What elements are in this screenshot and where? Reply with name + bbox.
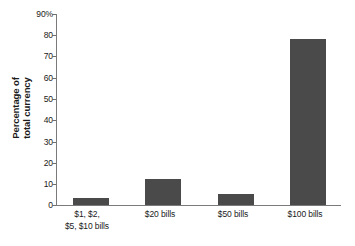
bar-small-bills — [73, 198, 109, 205]
bar-50-bills — [218, 194, 254, 205]
y-axis-title-line1: Percentage of — [10, 77, 21, 139]
x-tick-label-20-bills-line1: $20 bills — [145, 209, 175, 219]
x-tick-label-100-bills-line1: $100 bills — [288, 209, 323, 219]
y-tick-label-70: 70 — [22, 51, 56, 61]
x-tick-label-100-bills: $100 bills — [257, 209, 353, 221]
bar-100-bills — [290, 39, 326, 205]
y-tick-label-80: 80 — [22, 30, 56, 40]
x-tick-label-small-bills-line2: $5, $10 bills — [39, 221, 135, 233]
y-tick-label-50: 50 — [22, 94, 56, 104]
plot-area — [56, 14, 341, 205]
y-tick-label-30: 30 — [22, 137, 56, 147]
bar-chart-figure: Percentage of total currency 90% 80 70 6… — [0, 0, 355, 246]
y-tick-label-90: 90% — [22, 9, 56, 19]
x-tick-label-small-bills-line1: $1, $2, — [74, 209, 99, 219]
x-axis-line — [56, 205, 341, 206]
y-tick-label-60: 60 — [22, 73, 56, 83]
y-tick-label-10: 10 — [22, 179, 56, 189]
y-tick-label-20: 20 — [22, 158, 56, 168]
y-tick-label-40: 40 — [22, 115, 56, 125]
x-tick-label-50-bills-line1: $50 bills — [218, 209, 248, 219]
bar-20-bills — [145, 179, 181, 205]
